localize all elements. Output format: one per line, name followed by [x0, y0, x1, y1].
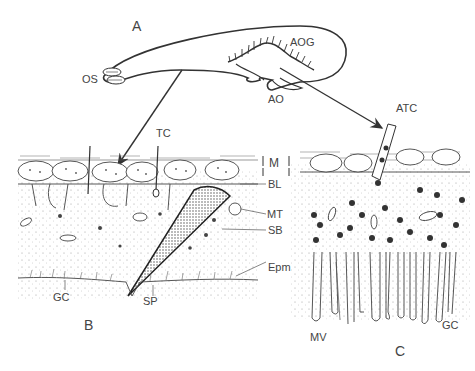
panel-c-label: C — [395, 344, 405, 358]
aog-label: AOG — [290, 37, 314, 48]
m-label: M — [269, 157, 279, 169]
mv-label: MV — [310, 332, 327, 343]
atc-label: ATC — [396, 103, 417, 114]
bl-label: BL — [268, 179, 281, 190]
arrow-to-b — [118, 70, 182, 165]
os-label: OS — [82, 74, 98, 85]
gc-label-b: GC — [53, 292, 70, 303]
tc-label: TC — [156, 128, 171, 139]
epm-label: Epm — [268, 262, 291, 273]
gc-label-c: GC — [442, 320, 459, 331]
sp-label: SP — [143, 296, 158, 307]
sb-label: SB — [268, 225, 283, 236]
diagram-canvas — [0, 0, 475, 371]
panel-b-label: B — [84, 318, 93, 332]
ao-label: AO — [268, 94, 284, 105]
panel-c-tissue — [290, 124, 470, 324]
panel-a-label: A — [132, 19, 141, 33]
panel-b-tissue — [18, 146, 266, 300]
mt-label: MT — [267, 209, 283, 220]
